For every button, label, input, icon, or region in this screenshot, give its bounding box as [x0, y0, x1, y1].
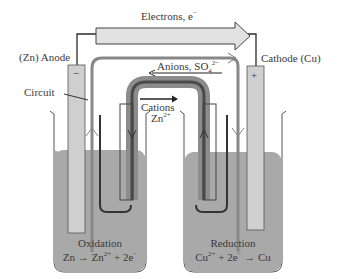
oxidation-title: Oxidation: [54, 237, 146, 249]
electron-flow-arrow: [96, 22, 250, 50]
anode-label: (Zn) Anode: [19, 51, 70, 63]
electrons-sup: −: [193, 9, 197, 17]
red-eq-c: → Cu: [242, 251, 271, 263]
cathode-electrode: [247, 66, 264, 230]
anions-text: Anions, SO: [157, 60, 208, 72]
electrons-label: Electrons, e−: [141, 9, 197, 22]
oxidation-equation: Zn → Zn2+ + 2e−: [54, 250, 146, 263]
anions-sub: 4: [208, 67, 212, 75]
electrons-text: Electrons, e: [141, 10, 193, 22]
galvanic-cell-diagram: [0, 0, 339, 279]
reduction-title: Reduction: [184, 237, 282, 249]
circuit-label: Circuit: [24, 86, 55, 98]
cations-ion-label: Zn2+: [151, 111, 171, 124]
anions-label: Anions, SO42−: [157, 59, 219, 75]
anode-sign: −: [73, 67, 79, 79]
anions-sup: 2−: [212, 59, 219, 67]
red-eq-a: Cu: [195, 251, 208, 263]
cations-ion-text: Zn: [151, 112, 163, 124]
cathode-label: Cathode (Cu): [261, 52, 321, 64]
cathode-sign: +: [251, 69, 257, 81]
cations-ion-sup: 2+: [163, 111, 170, 119]
salt-bridge: [120, 82, 216, 200]
anode-electrode: [68, 65, 85, 233]
red-eq-b: + 2e: [215, 251, 237, 263]
ox-eq-b: + 2e: [111, 251, 133, 263]
reduction-equation: Cu2+ + 2e− → Cu: [184, 250, 282, 263]
ox-eq-sup2: −: [133, 250, 137, 258]
ox-eq-a: Zn → Zn: [63, 251, 104, 263]
